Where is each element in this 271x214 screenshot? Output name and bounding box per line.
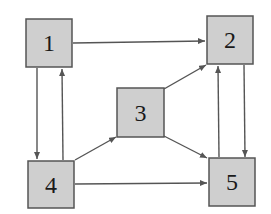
node-3: 3: [117, 88, 164, 137]
edge-4-to-5: [75, 183, 207, 184]
edge-4-to-1: [62, 69, 63, 160]
node-5-label: 5: [226, 169, 238, 195]
node-1: 1: [26, 19, 72, 67]
node-5: 5: [209, 158, 255, 206]
graph-diagram: 1 2 3 4 5: [0, 0, 271, 214]
edge-2-to-5: [244, 65, 245, 157]
node-3-label: 3: [135, 100, 147, 126]
node-4-label: 4: [45, 172, 57, 198]
edge-5-to-2: [218, 66, 219, 157]
node-1-label: 1: [43, 30, 55, 56]
edge-1-to-2: [73, 41, 205, 43]
edge-3-to-2: [164, 65, 206, 89]
edge-3-to-5: [164, 136, 207, 158]
node-2: 2: [207, 16, 253, 64]
edge-4-to-3: [75, 137, 116, 160]
node-2-label: 2: [224, 27, 236, 53]
node-4: 4: [28, 161, 74, 208]
